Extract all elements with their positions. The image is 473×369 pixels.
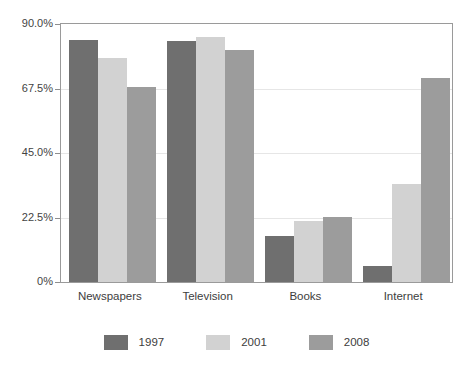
bar-group	[167, 24, 254, 282]
legend-label: 1997	[139, 336, 165, 349]
y-axis: 90.0%67.5%45.0%22.5%0%	[0, 0, 60, 369]
y-axis-tick-label: 22.5%	[22, 212, 53, 223]
bar[interactable]	[294, 221, 323, 282]
x-axis-category-label: Newspapers	[78, 290, 142, 303]
bar[interactable]	[392, 184, 421, 282]
bar[interactable]	[421, 78, 450, 282]
legend-item[interactable]: 2008	[309, 335, 370, 350]
bar[interactable]	[69, 40, 98, 282]
y-axis-tick-label: 45.0%	[22, 147, 53, 158]
legend-item[interactable]: 2001	[206, 335, 267, 350]
legend-item[interactable]: 1997	[104, 335, 165, 350]
bar[interactable]	[98, 58, 127, 282]
bar[interactable]	[196, 37, 225, 282]
y-axis-tick-label: 90.0%	[22, 18, 53, 29]
bar-group	[363, 24, 450, 282]
x-axis-category-label: Internet	[384, 290, 423, 303]
plot-area	[60, 23, 453, 283]
bar[interactable]	[127, 87, 156, 282]
legend-swatch	[309, 335, 333, 350]
bar-group	[69, 24, 156, 282]
legend-swatch	[206, 335, 230, 350]
x-axis-category-label: Television	[182, 290, 233, 303]
bar[interactable]	[167, 41, 196, 282]
bar-group	[265, 24, 352, 282]
y-axis-tick-label: 0%	[37, 276, 53, 287]
bar[interactable]	[363, 266, 392, 282]
bar-chart: 90.0%67.5%45.0%22.5%0% 199720012008 News…	[0, 0, 473, 369]
bar[interactable]	[323, 217, 352, 282]
x-axis-category-label: Books	[289, 290, 321, 303]
bar[interactable]	[225, 50, 254, 282]
bar[interactable]	[265, 236, 294, 282]
plot-inner	[61, 24, 452, 282]
legend-label: 2001	[241, 336, 267, 349]
chart-legend: 199720012008	[0, 330, 473, 354]
y-axis-tick-label: 67.5%	[22, 83, 53, 94]
legend-swatch	[104, 335, 128, 350]
legend-label: 2008	[344, 336, 370, 349]
